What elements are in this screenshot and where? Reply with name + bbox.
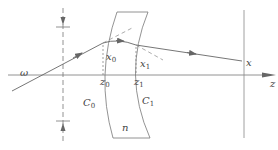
x1-label: x1 (140, 58, 150, 71)
omega-label: ω (20, 67, 28, 78)
refractive-index-label: n (122, 122, 128, 133)
z-axis-label: z (269, 78, 276, 89)
x-label: x (246, 57, 252, 68)
arrow-down-icon (61, 17, 66, 25)
optical-axis (8, 73, 276, 78)
x0-label: x0 (106, 51, 116, 64)
c0-label: C0 (83, 97, 95, 110)
z0-label: z0 (99, 76, 110, 89)
ray (12, 41, 242, 92)
c1-label: C1 (142, 95, 154, 108)
arrow-up-icon (61, 123, 66, 131)
ray-diagram: ω x0 z0 x1 z1 C0 C1 n x z (0, 0, 278, 150)
z1-label: z1 (133, 76, 144, 89)
